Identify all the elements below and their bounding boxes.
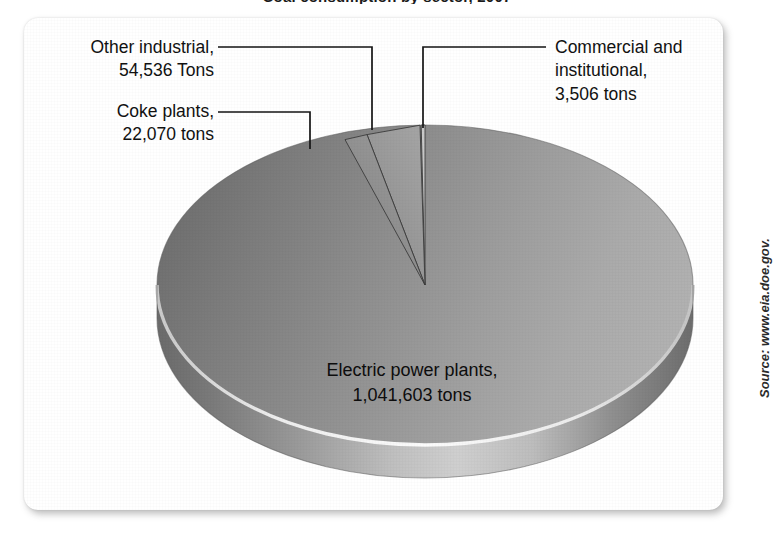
leader-line-commercial-institutional — [423, 47, 546, 128]
callout-commercial-institutional: Commercial and institutional, 3,506 tons — [555, 36, 725, 106]
source-credit: Source: www.eia.doe.gov. — [757, 188, 774, 398]
figure-container: Coal consumption by sector, 2007 — [0, 0, 774, 542]
leader-line-coke-plants — [218, 112, 310, 149]
callout-coke-plants: Coke plants, 22,070 tons — [38, 100, 214, 147]
callout-electric-power-plants: Electric power plants, 1,041,603 tons — [262, 358, 562, 408]
leader-line-other-industrial — [218, 47, 372, 130]
callout-other-industrial: Other industrial, 54,536 Tons — [38, 36, 214, 83]
